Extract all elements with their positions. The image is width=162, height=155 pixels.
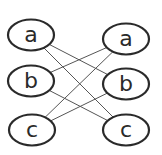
node-label: c <box>26 117 38 142</box>
node-right-c: c <box>103 115 149 146</box>
node-label: b <box>24 68 38 93</box>
node-label: c <box>120 117 132 142</box>
bipartite-diagram: abcabc <box>0 0 162 155</box>
edge-Lb-Rc <box>49 90 107 120</box>
node-label: a <box>24 22 37 47</box>
node-right-a: a <box>103 24 149 55</box>
node-label: b <box>119 71 133 96</box>
node-right-b: b <box>103 69 149 100</box>
node-label: a <box>119 26 132 51</box>
node-left-b: b <box>8 66 54 97</box>
edge-Lb-Ra <box>50 48 107 73</box>
edge-Lc-Rb <box>51 93 108 121</box>
node-left-a: a <box>8 20 54 51</box>
node-left-c: c <box>9 115 55 146</box>
